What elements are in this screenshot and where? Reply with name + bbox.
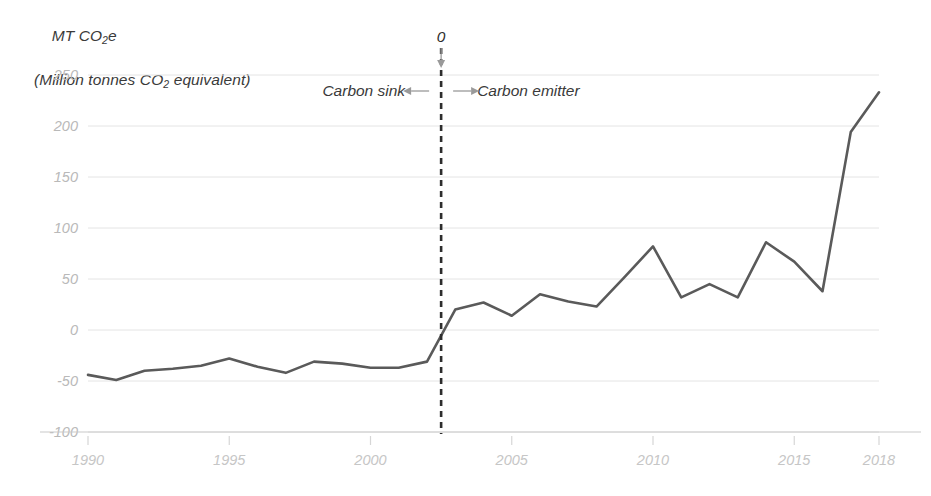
- carbon-emitter-annotation-group: Carbon emitter: [453, 82, 580, 99]
- zero-annotation-group: 0: [437, 28, 446, 68]
- y-axis-tick-label-150: 150: [54, 169, 78, 185]
- x-axis-tick-label-2010: 2010: [636, 452, 669, 468]
- chart-plot-area: 250200150100500-50-100 19901995200020052…: [0, 0, 931, 496]
- y-axis-tick-label-100: 100: [54, 220, 78, 236]
- y-axis-tick-label-200: 200: [53, 118, 78, 134]
- chart-container: MT CO2e (Million tonnes CO2 equivalent) …: [0, 0, 931, 496]
- carbon-sink-annotation-group: Carbon sink: [322, 82, 429, 99]
- y-axis-tick-label-250: 250: [53, 67, 78, 83]
- x-axis-tick-label-2018: 2018: [862, 452, 895, 468]
- x-axis-tick-marks: [88, 436, 879, 445]
- x-axis-tick-label-2005: 2005: [495, 452, 529, 468]
- x-axis-tick-labels: 1990199520002005201020152018: [72, 452, 895, 468]
- zero-arrow-head-icon: [437, 60, 445, 68]
- zero-crossing-label: 0: [437, 28, 446, 45]
- x-axis-tick-label-1995: 1995: [213, 452, 246, 468]
- x-axis-tick-label-2015: 2015: [777, 452, 811, 468]
- y-axis-tick-label--50: -50: [57, 373, 78, 389]
- carbon-sink-label: Carbon sink: [322, 82, 406, 99]
- carbon-emitter-label: Carbon emitter: [477, 82, 580, 99]
- data-line-series-0: [88, 92, 879, 380]
- x-axis-tick-label-2000: 2000: [353, 452, 386, 468]
- y-axis-tick-labels: 250200150100500-50-100: [49, 67, 78, 440]
- y-axis-tick-label-0: 0: [70, 322, 78, 338]
- y-axis-tick-label-50: 50: [62, 271, 78, 287]
- x-axis-tick-label-1990: 1990: [72, 452, 104, 468]
